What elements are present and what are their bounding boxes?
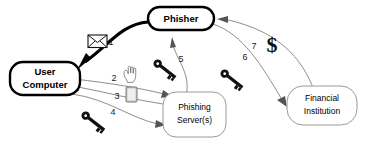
node-financial-institution-label-line1: Financial [305, 93, 339, 103]
edge-2-user-to-server [74, 79, 172, 98]
hand-cursor-icon-shape [124, 66, 136, 82]
key-icon-step-4 [79, 110, 107, 135]
hand-cursor-icon [124, 66, 136, 82]
node-phishing-server-label-line2: Server(s) [177, 115, 212, 125]
step-label-2: 2 [111, 73, 116, 83]
node-user-computer-label-line1: User [34, 66, 55, 77]
edge-7-arrowhead [217, 16, 228, 23]
edge-1-arrowhead [77, 53, 91, 70]
node-financial-institution-label-line2: Institution [304, 106, 341, 116]
document-icon [126, 87, 137, 102]
edge-3-path [78, 87, 163, 104]
node-phishing-server-label-line1: Phishing [178, 102, 211, 112]
step-label-6: 6 [242, 52, 247, 62]
node-user-computer-label-line2: Computer [23, 79, 68, 90]
envelope-icon [88, 35, 107, 48]
step-label-1: 1 [108, 37, 113, 47]
node-user-computer[interactable]: User Computer [10, 62, 80, 95]
node-financial-institution[interactable]: Financial Institution [287, 86, 357, 125]
key-icon-step-5 [151, 58, 178, 82]
key-icon-step-4-shaft [87, 116, 105, 131]
dollar-icon: $ [267, 32, 278, 57]
node-phisher[interactable]: Phisher [148, 7, 214, 30]
node-phisher-label: Phisher [164, 13, 199, 24]
diagram-canvas: Phisher User Computer Phishing Server(s)… [0, 0, 367, 148]
phishing-flow-diagram: Phisher User Computer Phishing Server(s)… [0, 0, 367, 148]
edge-5-path [173, 45, 187, 96]
step-label-5: 5 [178, 54, 183, 64]
step-label-7: 7 [251, 41, 256, 51]
key-icon-step-6 [218, 68, 245, 92]
edge-5-server-to-phisher [170, 37, 187, 96]
document-icon-page [128, 89, 136, 101]
node-phishing-server[interactable]: Phishing Server(s) [163, 92, 226, 137]
step-label-3: 3 [114, 91, 119, 101]
step-label-4: 4 [110, 107, 115, 117]
edge-5-arrowhead [170, 37, 176, 48]
edge-6-arrowhead [277, 96, 287, 107]
